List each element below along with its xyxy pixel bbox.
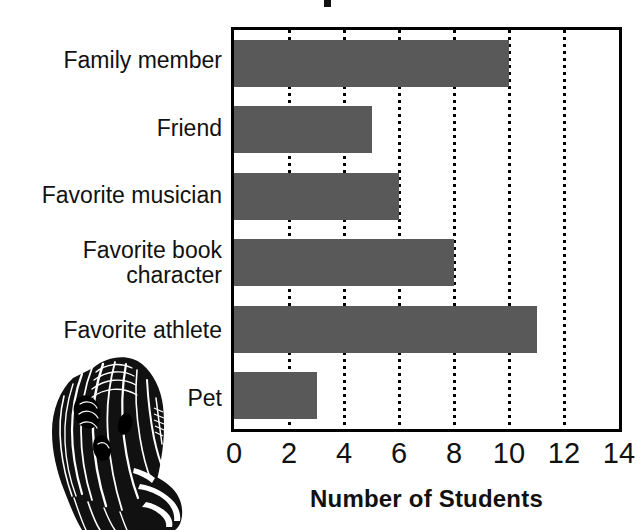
x-tick-label-6: 6 bbox=[391, 437, 407, 470]
bar-row bbox=[234, 106, 619, 153]
x-tick-label-10: 10 bbox=[493, 437, 525, 470]
category-label-favorite-athlete: Favorite athlete bbox=[0, 307, 222, 354]
category-label-family-member: Family member bbox=[0, 37, 222, 84]
bar-pet bbox=[234, 372, 317, 419]
x-tick-label-14: 14 bbox=[603, 437, 635, 470]
bar-family-member bbox=[234, 40, 509, 87]
bar-row bbox=[234, 306, 619, 353]
x-axis-tick-labels: 02468101214 bbox=[231, 437, 622, 473]
bars-layer bbox=[234, 30, 619, 429]
bar-favorite-book-character bbox=[234, 239, 454, 286]
bar-row bbox=[234, 372, 619, 419]
bar-favorite-athlete bbox=[234, 306, 537, 353]
category-label-friend: Friend bbox=[0, 105, 222, 152]
bar-friend bbox=[234, 106, 372, 153]
x-tick-label-12: 12 bbox=[548, 437, 580, 470]
alice-woodcut-illustration bbox=[30, 352, 205, 530]
bar-row bbox=[234, 173, 619, 220]
x-tick-label-0: 0 bbox=[226, 437, 242, 470]
bar-favorite-musician bbox=[234, 173, 399, 220]
x-tick-label-2: 2 bbox=[281, 437, 297, 470]
plot-area bbox=[231, 27, 622, 432]
x-tick-label-4: 4 bbox=[336, 437, 352, 470]
bar-row bbox=[234, 40, 619, 87]
cropped-title-fragment bbox=[324, 0, 331, 7]
category-label-favorite-book-character: Favorite book character bbox=[0, 240, 222, 287]
x-axis-title: Number of Students bbox=[231, 485, 622, 513]
category-label-favorite-musician: Favorite musician bbox=[0, 172, 222, 219]
chart-page: Family member Friend Favorite musician F… bbox=[0, 0, 644, 530]
x-tick-label-8: 8 bbox=[446, 437, 462, 470]
bar-row bbox=[234, 239, 619, 286]
